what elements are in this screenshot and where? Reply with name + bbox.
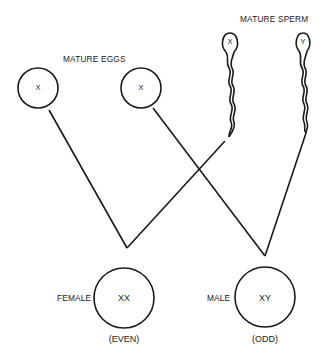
mature-sperm-heading: MATURE SPERM	[240, 14, 308, 24]
sperm-1-chromosome: X	[220, 37, 240, 46]
female-note: (EVEN)	[104, 334, 144, 344]
sperm-2-chromosome: Y	[293, 37, 313, 46]
line-spermy-to-male	[265, 133, 306, 256]
line-spermx-to-female	[127, 141, 225, 248]
mature-eggs-heading: MATURE EGGS	[63, 54, 126, 64]
line-egg1-to-female	[49, 110, 127, 248]
cross-diagram-lines	[0, 0, 325, 362]
male-genotype: XY	[250, 293, 280, 303]
egg-1-chromosome: X	[28, 83, 48, 92]
male-note: (ODD)	[245, 334, 285, 344]
female-label: FEMALE	[57, 293, 91, 303]
egg-2-chromosome: X	[131, 83, 151, 92]
sperm-x-shape	[223, 33, 238, 137]
line-egg2-to-male	[153, 108, 265, 256]
sperm-y-shape	[296, 33, 310, 133]
female-genotype: XX	[109, 293, 139, 303]
male-label: MALE	[207, 293, 230, 303]
